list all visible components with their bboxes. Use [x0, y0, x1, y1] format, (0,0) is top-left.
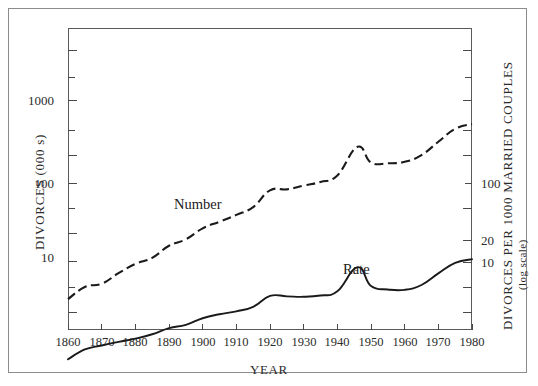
y-axis-left-title: DIVORCES (000 s): [32, 134, 48, 250]
y-tick-label-right-20: 20: [481, 234, 494, 247]
x-tick-label-1980: 1980: [447, 336, 497, 348]
figure-chart: DIVORCES (000 s) DIVORCES PER 1000 MARRI…: [0, 0, 538, 386]
y-tick-label-right-100: 100: [481, 177, 501, 190]
y-tick-label-left-100: 100: [12, 177, 54, 190]
y-axis-right-title: DIVORCES PER 1000 MARRIED COUPLES: [500, 61, 516, 330]
x-axis-title: YEAR: [0, 362, 538, 378]
series-line-number: [68, 124, 472, 299]
y-tick-label-right-10: 10: [481, 256, 494, 269]
plot-area: Number Rate: [68, 28, 472, 330]
y-axis-right-subtitle: (log scale): [516, 239, 528, 290]
y-tick-label-left-1000: 1000: [12, 94, 54, 107]
series-annotation-rate: Rate: [343, 261, 370, 278]
y-tick-label-left-10: 10: [12, 251, 54, 264]
series-annotation-number: Number: [174, 196, 222, 213]
data-series-layer: [68, 28, 472, 330]
